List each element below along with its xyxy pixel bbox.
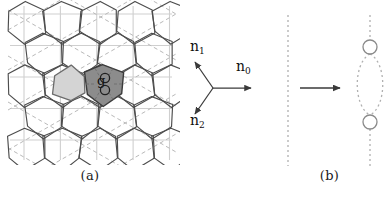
vector-label-n2-sub: 2 (199, 120, 205, 130)
lens-arc-right (370, 54, 383, 115)
dashed-line-slope-down (8, 0, 176, 14)
panel-a: g (a) (0, 0, 180, 198)
lattice-cell (8, 128, 45, 165)
figure-root: g (a) n1 n0 n2 (b) (0, 0, 389, 198)
panel-b: (b) (270, 0, 389, 198)
lattice-cell (79, 1, 116, 44)
dashed-line-slope-down (8, 102, 176, 165)
lattice-cell (8, 1, 46, 44)
vector-label-n0: n0 (236, 58, 251, 74)
lattice-cell (25, 33, 63, 76)
lattice-cell (152, 65, 180, 108)
vector-label-n0-sub: 0 (245, 66, 251, 76)
lattice-cell (43, 1, 83, 44)
dashed-line-slope-down (8, 148, 176, 165)
panel-vectors: n1 n0 n2 (180, 0, 270, 198)
panel-b-caption: (b) (270, 168, 389, 183)
lattice-cell (117, 128, 154, 165)
string-splitting-svg (270, 0, 389, 180)
vector-label-n2: n2 (190, 112, 205, 128)
vector-label-n1-sub: 1 (199, 46, 205, 56)
vertex-circle (363, 115, 377, 129)
hexagonal-lattice-svg (0, 0, 180, 165)
lattice-cell (25, 97, 64, 139)
light-highlighted-cell (53, 65, 85, 100)
basis-vector-svg (180, 0, 270, 198)
lattice-cell (79, 128, 117, 165)
vector-arrow-n2 (195, 88, 213, 114)
lattice-cell (43, 128, 82, 165)
lattice-cell (134, 97, 172, 139)
vector-label-n0-base: n (236, 58, 245, 74)
lattice-cell (152, 1, 180, 44)
panel-a-caption: (a) (0, 168, 180, 183)
cell-label-g: g (97, 73, 105, 88)
vector-arrow-n1 (195, 62, 213, 88)
vector-label-n1-base: n (190, 38, 199, 54)
lens-arc-left (357, 54, 370, 115)
lattice-cell (8, 65, 45, 108)
dashed-line-slope-up (8, 94, 176, 165)
vector-label-n1: n1 (190, 38, 205, 54)
vertex-circle (363, 40, 377, 54)
lattice-cell (117, 1, 155, 44)
vector-label-n2-base: n (190, 112, 199, 128)
